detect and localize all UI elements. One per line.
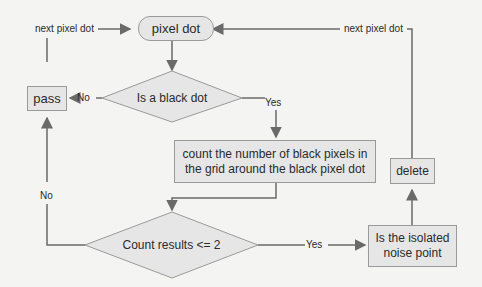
edge-no2-line: [47, 204, 85, 245]
edge-label-count-yes: Yes: [306, 239, 322, 250]
isolated-node: Is the isolated noise point: [368, 225, 457, 267]
decision-black-label: Is a black dot: [102, 86, 242, 110]
decision-count-label: Count results <= 2: [85, 233, 258, 257]
pass-node: pass: [27, 86, 67, 111]
edge-label-black-no: No: [77, 92, 90, 103]
start-node: pixel dot: [138, 16, 214, 41]
count-node: count the number of black pixels in the …: [174, 140, 376, 183]
edge-delete-up: [407, 29, 412, 158]
edge-label-next-left: next pixel dot: [35, 23, 94, 34]
edge-label-next-right: next pixel dot: [344, 23, 403, 34]
edge-label-count-no: No: [40, 190, 53, 201]
delete-node: delete: [390, 158, 435, 184]
edge-label-black-yes: Yes: [265, 97, 281, 108]
edge-count-decision: [172, 183, 276, 210]
